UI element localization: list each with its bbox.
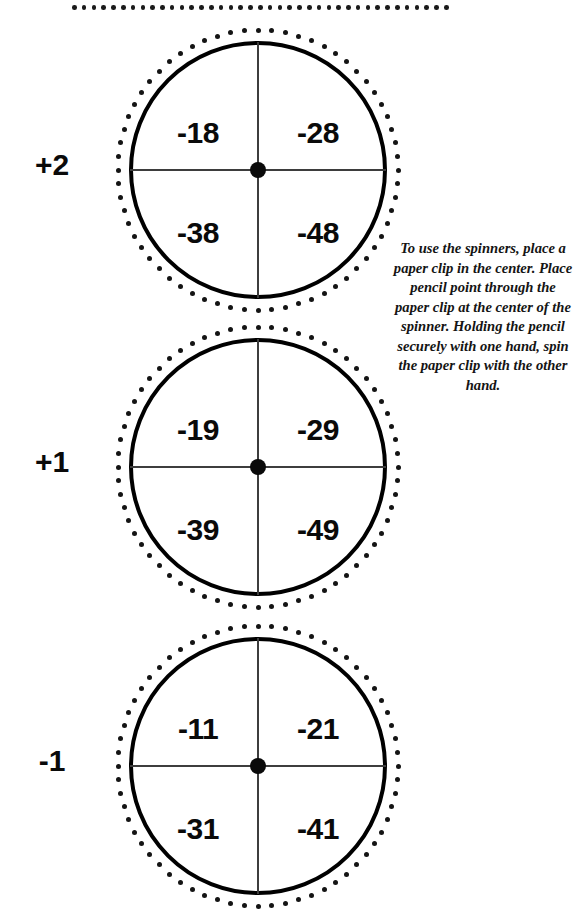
ring-dot: [395, 777, 400, 782]
ring-dot: [346, 5, 351, 10]
ring-dot: [395, 451, 400, 456]
ring-dot: [189, 5, 194, 10]
ring-dot: [228, 305, 233, 310]
spinner-3-sector-bottom-left: -31: [150, 814, 246, 844]
ring-dot: [178, 348, 183, 353]
ring-dot: [215, 301, 220, 306]
ring-dot: [101, 5, 106, 10]
ring-dot: [258, 5, 263, 10]
ring-dot: [180, 5, 185, 10]
spinner-3-sector-top-right: -21: [270, 714, 366, 744]
ring-dot: [139, 387, 144, 392]
ring-dot: [395, 181, 400, 186]
ring-dot: [132, 698, 137, 703]
ring-dot: [118, 736, 123, 741]
ring-dot: [322, 341, 327, 346]
ring-dot: [344, 59, 349, 64]
ring-dot: [190, 588, 195, 593]
ring-dot: [170, 5, 175, 10]
ring-dot: [296, 897, 301, 902]
ring-dot: [296, 598, 301, 603]
ring-dot: [157, 563, 162, 568]
ring-dot: [333, 880, 338, 885]
ring-dot: [333, 284, 338, 289]
spinner-2[interactable]: -19 -29 -39 -49: [108, 317, 408, 617]
instructions-text: To use the spinners, place a paper clip …: [392, 239, 574, 395]
ring-dot: [228, 30, 233, 35]
ring-dot: [219, 5, 224, 10]
ring-dot: [242, 624, 247, 629]
ring-dot: [344, 872, 349, 877]
ring-dot: [364, 852, 369, 857]
ring-dot: [393, 736, 398, 741]
spinner-1-sector-bottom-left: -38: [150, 218, 246, 248]
ring-dot: [147, 256, 152, 261]
ring-dot: [322, 44, 327, 49]
ring-dot: [396, 465, 401, 470]
ring-dot: [139, 841, 144, 846]
spinner-center-hub-3: [250, 758, 266, 774]
ring-dot: [389, 208, 394, 213]
spinner-caption-1: +2: [0, 150, 104, 180]
ring-dot: [309, 297, 314, 302]
ring-dot: [178, 51, 183, 56]
ring-dot: [364, 256, 369, 261]
ring-dot: [242, 307, 247, 312]
spinner-2-sector-bottom-left: -39: [150, 515, 246, 545]
ring-dot: [116, 478, 121, 483]
spinner-1[interactable]: -18 -28 -38 -48: [108, 20, 408, 320]
ring-dot: [269, 307, 274, 312]
ring-dot: [379, 830, 384, 835]
ring-dot: [190, 291, 195, 296]
ring-dot: [269, 28, 274, 33]
ring-dot: [372, 686, 377, 691]
ring-dot: [167, 573, 172, 578]
ring-dot: [372, 245, 377, 250]
ring-dot: [160, 5, 165, 10]
spinner-3[interactable]: -11 -21 -31 -41: [108, 616, 408, 916]
ring-dot: [364, 553, 369, 558]
ring-dot: [278, 5, 283, 10]
ring-dot: [215, 34, 220, 39]
ring-dot: [389, 505, 394, 510]
ring-dot: [344, 655, 349, 660]
ring-dot: [147, 553, 152, 558]
ring-dot: [269, 624, 274, 629]
spinner-center-hub-2: [250, 459, 266, 475]
ring-dot: [238, 5, 243, 10]
ring-dot: [385, 817, 390, 822]
ring-dot: [379, 698, 384, 703]
ring-dot: [389, 127, 394, 132]
ring-dot: [116, 154, 121, 159]
ring-dot: [395, 154, 400, 159]
spinner-3-sector-bottom-right: -41: [270, 814, 366, 844]
ring-dot: [118, 492, 123, 497]
ring-dot: [385, 518, 390, 523]
ring-dot: [354, 563, 359, 568]
ring-dot: [248, 5, 253, 10]
ring-dot: [139, 245, 144, 250]
ring-dot: [157, 366, 162, 371]
ring-dot: [167, 655, 172, 660]
ring-dot: [147, 376, 152, 381]
ring-dot: [283, 901, 288, 906]
ring-dot: [283, 30, 288, 35]
ring-dot: [131, 5, 136, 10]
ring-dot: [364, 376, 369, 381]
worksheet-page: +2 -18 -28 -38 -48 +1 -19 -29 -39 -49 -1…: [0, 0, 581, 917]
ring-dot: [126, 221, 131, 226]
ring-dot: [405, 5, 410, 10]
ring-dot: [309, 634, 314, 639]
ring-dot: [395, 5, 400, 10]
ring-dot: [116, 764, 121, 769]
spinner-caption-3: -1: [0, 746, 104, 776]
ring-dot: [190, 640, 195, 645]
ring-dot: [157, 665, 162, 670]
ring-dot: [178, 284, 183, 289]
ring-dot: [126, 710, 131, 715]
spinner-2-sector-bottom-right: -49: [270, 515, 366, 545]
ring-dot: [256, 605, 261, 610]
ring-dot: [333, 348, 338, 353]
ring-dot: [167, 59, 172, 64]
ring-dot: [344, 356, 349, 361]
